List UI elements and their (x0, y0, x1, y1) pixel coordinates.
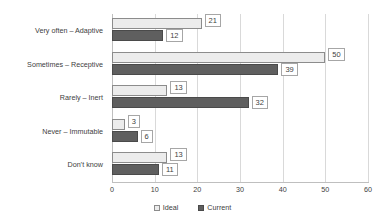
data-label-current-3: 6 (141, 130, 153, 143)
x-axis-line (112, 182, 369, 183)
x-tick-label-5: 50 (321, 185, 329, 194)
data-label-current-2: 32 (252, 96, 268, 109)
x-tick-label-3: 30 (236, 185, 244, 194)
bar-current-1[interactable] (112, 64, 278, 75)
category-label-4: Don’t know (3, 160, 103, 169)
bar-current-4[interactable] (112, 164, 159, 175)
data-label-current-4: 11 (162, 163, 178, 176)
x-tick-label-2: 20 (193, 185, 201, 194)
data-label-ideal-0: 21 (205, 14, 221, 27)
data-label-ideal-1: 50 (328, 48, 344, 61)
legend-swatch-current-icon (198, 205, 204, 211)
data-label-current-0: 12 (166, 29, 182, 42)
legend-swatch-ideal-icon (154, 205, 160, 211)
bar-group-rarely-inert: 1332 (112, 81, 368, 115)
data-label-ideal-4: 13 (170, 148, 186, 161)
bar-ideal-3[interactable] (112, 119, 125, 130)
bar-ideal-2[interactable] (112, 85, 167, 96)
bar-current-3[interactable] (112, 131, 138, 142)
bar-group-sometimes-receptive: 5039 (112, 48, 368, 82)
bar-ideal-0[interactable] (112, 18, 202, 29)
plot-area: 2112 5039 1332 36 1311 (112, 14, 368, 182)
x-tick-label-6: 60 (364, 185, 372, 194)
x-tick-label-4: 40 (279, 185, 287, 194)
category-label-2: Rarely – Inert (3, 93, 103, 102)
gridline-60 (368, 14, 369, 182)
chart-legend: Ideal Current (0, 203, 385, 212)
legend-label-current: Current (207, 203, 231, 212)
data-label-ideal-2: 13 (170, 81, 186, 94)
bar-chart: 2112 5039 1332 36 1311 Very often – Adap… (0, 0, 385, 224)
bar-ideal-4[interactable] (112, 152, 167, 163)
bar-group-very-often-adaptive: 2112 (112, 14, 368, 48)
bar-group-never-immutable: 36 (112, 115, 368, 149)
data-label-ideal-3: 3 (128, 115, 140, 128)
category-label-0: Very often – Adaptive (3, 26, 103, 35)
bar-group-dont-know: 1311 (112, 148, 368, 182)
bar-ideal-1[interactable] (112, 52, 325, 63)
bar-current-2[interactable] (112, 97, 249, 108)
data-label-current-1: 39 (281, 63, 297, 76)
legend-item-ideal[interactable]: Ideal (154, 203, 179, 212)
bar-current-0[interactable] (112, 30, 163, 41)
x-tick-label-0: 0 (110, 185, 114, 194)
legend-label-ideal: Ideal (163, 203, 179, 212)
x-tick-label-1: 10 (151, 185, 159, 194)
category-label-1: Sometimes – Receptive (3, 60, 103, 69)
legend-item-current[interactable]: Current (198, 203, 231, 212)
category-label-3: Never – Immutable (3, 127, 103, 136)
